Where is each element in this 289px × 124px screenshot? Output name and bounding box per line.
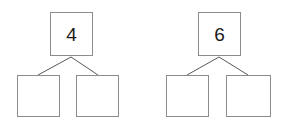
part-box-left-2[interactable] xyxy=(166,75,209,117)
whole-value-2: 6 xyxy=(214,25,225,44)
whole-box-2[interactable]: 6 xyxy=(198,12,241,56)
connector-line-left-2 xyxy=(187,57,219,75)
connector-line-right-2 xyxy=(219,57,248,75)
worksheet-canvas: 4 6 xyxy=(0,0,289,124)
part-box-right-2[interactable] xyxy=(226,75,271,117)
number-bond-diagram-2: 6 xyxy=(0,0,289,124)
